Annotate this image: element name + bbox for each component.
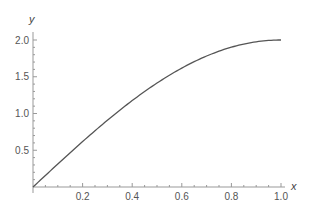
axes: 0.20.40.60.81.00.51.01.52.0 — [15, 32, 288, 202]
x-tick-label: 0.6 — [175, 191, 189, 202]
x-tick-label: 0.8 — [224, 191, 238, 202]
x-axis-label: x — [290, 180, 297, 192]
y-tick-label: 1.0 — [15, 108, 29, 119]
y-tick-label: 1.5 — [15, 71, 29, 82]
data-line — [33, 40, 281, 187]
x-tick-label: 1.0 — [274, 191, 288, 202]
y-tick-label: 0.5 — [15, 145, 29, 156]
y-axis-label: y — [28, 13, 36, 25]
y-tick-label: 2.0 — [15, 35, 29, 46]
x-tick-label: 0.2 — [76, 191, 90, 202]
x-tick-label: 0.4 — [125, 191, 139, 202]
line-chart: 0.20.40.60.81.00.51.01.52.0 x y — [0, 0, 313, 213]
